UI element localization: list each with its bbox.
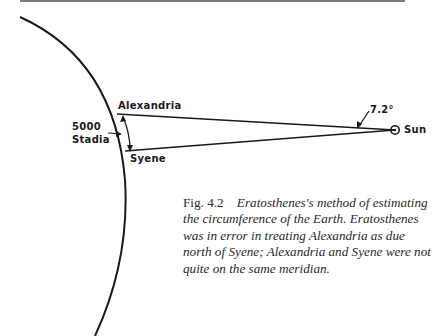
syene-sun-ray xyxy=(125,130,395,151)
distance-unit-label: Stadia xyxy=(72,134,110,145)
angle-label: 7.2° xyxy=(370,104,394,115)
earth-surface-arc xyxy=(20,17,126,336)
sun-label: Sun xyxy=(404,124,426,135)
stadia-pointer-arrowhead-icon xyxy=(116,131,122,137)
alexandria-sun-ray xyxy=(117,114,395,130)
distance-value-label: 5000 xyxy=(72,121,101,132)
alexandria-label: Alexandria xyxy=(118,100,182,111)
arrowhead-up-icon xyxy=(120,115,126,122)
figure-number: Fig. 4.2 xyxy=(183,195,224,210)
eratosthenes-diagram xyxy=(0,0,442,336)
syene-label: Syene xyxy=(130,153,166,164)
figure-caption: Fig. 4.2 Eratosthenes's method of estima… xyxy=(183,195,433,277)
